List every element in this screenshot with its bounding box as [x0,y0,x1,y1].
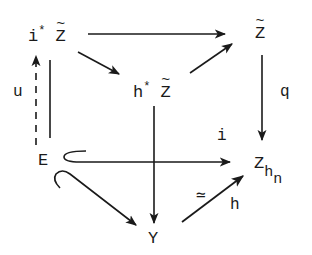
z-tilde: ~Z [255,25,265,42]
label-h: h [230,197,240,213]
node-prefix: h [133,83,143,102]
node-prefix: i [28,27,38,46]
node-base: E [38,151,48,170]
node-base: Z [254,154,264,173]
label-i: i [217,128,227,144]
tilde-accent: ~ [161,73,171,88]
node-h-star-z-tilde: h* ~Z [133,84,171,101]
node-y: Y [148,230,158,247]
z-tilde: ~Z [161,84,171,101]
subscript-h: h [264,164,273,181]
tilde-accent: ~ [56,17,66,32]
node-z-tilde: ~Z [255,25,265,42]
label-u: u [13,84,23,100]
tilde-accent: ~ [255,14,265,29]
star-superscript: * [143,80,150,94]
label-equiv: ≃ [196,188,206,204]
label-q: q [280,84,290,100]
arrow-i-to-h [78,52,119,74]
subscript-n: n [273,171,282,188]
node-e: E [38,152,48,169]
node-z-hn: Zhn [254,155,282,172]
node-i-star-z-tilde: i* ~Z [28,28,66,45]
z-tilde: ~Z [56,28,66,45]
node-base: Y [148,229,158,248]
hook-e-to-y [55,171,136,225]
hook-e-to-z [64,151,230,162]
arrow-h-to-ztilde [190,44,232,73]
star-superscript: * [38,24,45,38]
